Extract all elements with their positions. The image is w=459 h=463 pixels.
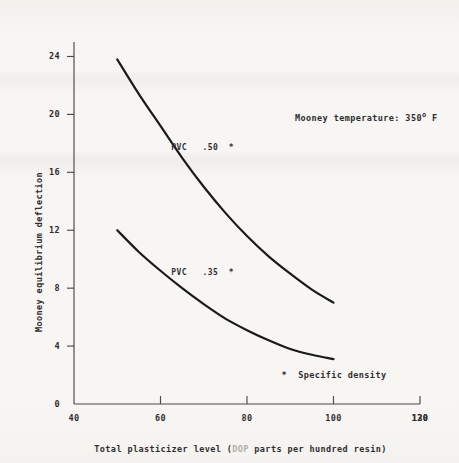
series-line-pvc-035 [117, 230, 333, 359]
x-axis-title-faded-token: DOP [232, 444, 249, 454]
x-tick-label: 60 [146, 413, 176, 423]
series-label-pvc-050: PVC .50 * [171, 143, 234, 152]
series-label-pvc-035: PVC .35 * [171, 268, 234, 277]
plot-area [0, 0, 459, 463]
x-tick-label: 100 [319, 413, 349, 423]
x-tick-label-overprint: 130 [412, 413, 429, 423]
x-tick-label: 80 [232, 413, 262, 423]
x-tick-label: 40 [59, 413, 89, 423]
y-tick-label: 4 [36, 341, 60, 351]
chart-figure: 04812162024 406080100120130 Mooney equil… [0, 0, 459, 463]
y-axis-title: Mooney equilibrium deflection [34, 172, 44, 332]
x-tick-label-overstrike: 120130 [412, 413, 429, 423]
y-tick-label: 20 [36, 109, 60, 119]
y-tick-label: 24 [36, 51, 60, 61]
annotation-temperature-suffix: F [427, 113, 438, 123]
x-axis-title: Total plasticizer level (DOP parts per h… [0, 434, 459, 463]
chart-svg [0, 0, 459, 463]
y-tick-label: 0 [36, 399, 60, 409]
annotation-mooney-temperature: Mooney temperature: 350o F [273, 103, 438, 133]
x-axis-title-prefix: Total plasticizer level ( [94, 444, 232, 454]
series-line-pvc-050 [117, 59, 333, 302]
x-axis-ticks [161, 396, 421, 404]
y-axis-ticks [67, 56, 74, 346]
annotation-temperature-prefix: Mooney temperature: 350 [295, 113, 422, 123]
annotation-specific-density: * Specific density [282, 370, 387, 380]
x-axis-title-suffix: parts per hundred resin) [249, 444, 387, 454]
x-tick-label: 120130 [405, 413, 435, 423]
